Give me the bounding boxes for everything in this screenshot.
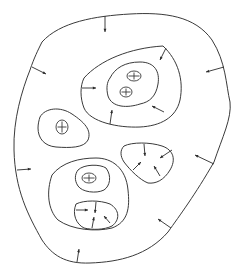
middle-right-region (121, 143, 173, 183)
region-boundaries (14, 14, 230, 264)
arrow-icon (94, 202, 97, 213)
arrow-icon (160, 150, 172, 158)
arrow-icon (104, 216, 110, 223)
arrow-icon (133, 162, 141, 170)
arrow-icon (154, 166, 160, 176)
upper-cell-2-icon (120, 87, 132, 97)
arrow-icon (152, 106, 164, 112)
arrow-icon (158, 219, 171, 228)
flow-arrows (17, 16, 224, 262)
arrow-icon (76, 209, 88, 212)
upper-cluster-outer-ring (81, 46, 181, 127)
arrow-icon (160, 48, 166, 60)
arrow-icon (206, 67, 224, 72)
arrow-icon (82, 87, 96, 90)
left-cell-icon (56, 120, 68, 134)
arrow-icon (17, 168, 31, 171)
arrow-icon (77, 249, 80, 262)
upper-cluster-inner-ring (107, 62, 158, 106)
lower-cluster-outer-ring (49, 158, 129, 230)
lower-cell-icon (82, 173, 96, 183)
upper-cell-1-icon (127, 71, 141, 81)
diagram-canvas (0, 0, 239, 272)
lower-cluster-inner-ring (75, 165, 109, 192)
arrow-icon (110, 110, 113, 124)
arrow-icon (195, 155, 214, 164)
arrow-icon (143, 144, 146, 156)
arrow-icon (92, 217, 95, 228)
arrow-icon (32, 67, 46, 74)
left-region (38, 109, 89, 147)
arrow-icon (104, 16, 107, 32)
outer-boundary (14, 14, 230, 264)
